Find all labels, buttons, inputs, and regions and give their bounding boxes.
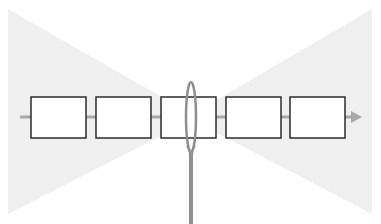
box-5 [290, 97, 345, 138]
box-4 [226, 97, 281, 138]
vertical-rod [189, 154, 193, 224]
funnel-diagram [0, 0, 381, 224]
box-2 [96, 97, 151, 138]
box-1 [31, 97, 86, 138]
box-3 [161, 97, 216, 138]
